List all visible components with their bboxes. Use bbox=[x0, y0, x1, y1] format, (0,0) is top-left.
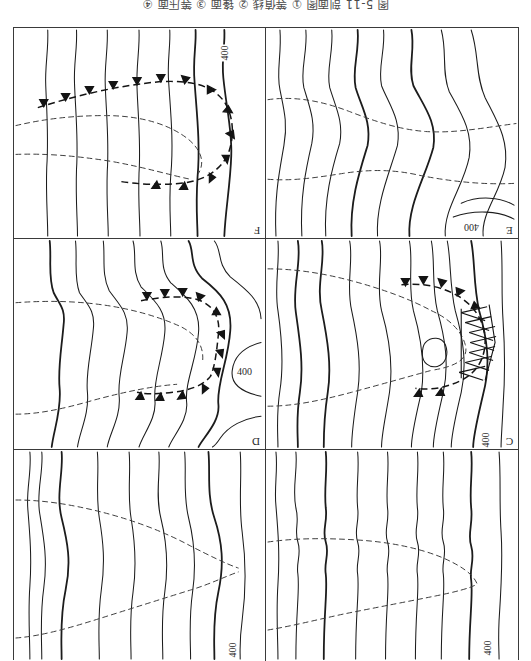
panel-c-plot bbox=[266, 239, 518, 449]
dashed-contour-set bbox=[16, 500, 238, 638]
dashed-contour-set bbox=[16, 116, 202, 180]
panel-grid: 400 F bbox=[13, 27, 519, 660]
closed-contour-set bbox=[453, 198, 514, 219]
figure-caption-strip: 图 5-11 剖面图 ① 等值线 ② 锋面 ③ 等压面 ④ bbox=[0, 0, 531, 14]
panel-label-f: F bbox=[254, 225, 260, 236]
panel-f: 400 F bbox=[14, 28, 266, 239]
panel-e-plot bbox=[266, 28, 518, 238]
contour-label-400-d: 400 bbox=[236, 367, 253, 377]
solid-contour-set bbox=[50, 241, 261, 447]
dashed-contour-set bbox=[268, 98, 516, 183]
dashed-contour-set bbox=[268, 269, 466, 406]
solid-contour-set bbox=[276, 30, 506, 236]
panel-a: 400 bbox=[266, 450, 518, 661]
panel-e: 400 E bbox=[266, 28, 518, 239]
barbed-front-line bbox=[38, 75, 234, 189]
contour-label-400-b: 400 bbox=[228, 642, 238, 659]
solid-contour-set bbox=[275, 452, 502, 659]
panel-label-d: D bbox=[252, 436, 260, 447]
solid-contour-set bbox=[46, 30, 232, 236]
contour-label-400-a: 400 bbox=[483, 640, 493, 657]
front-barbs bbox=[136, 289, 224, 400]
panel-c: 400 C bbox=[266, 239, 518, 450]
panel-d-plot bbox=[14, 239, 265, 449]
contour-label-400-c: 400 bbox=[481, 432, 491, 449]
solid-contour-set bbox=[27, 452, 245, 659]
front-barbs bbox=[401, 277, 479, 396]
figure-caption-text: 图 5-11 剖面图 ① 等值线 ② 锋面 ③ 等压面 ④ bbox=[0, 0, 531, 13]
contour-label-400-e: 400 bbox=[463, 222, 480, 232]
contour-label-400-f: 400 bbox=[220, 45, 230, 62]
barbed-front-line bbox=[136, 289, 224, 400]
panel-b-plot bbox=[14, 450, 265, 661]
panel-label-e: E bbox=[506, 225, 513, 236]
dashed-contour-set bbox=[16, 301, 203, 414]
panel-label-c: C bbox=[506, 436, 513, 447]
solid-contour-set bbox=[277, 241, 505, 447]
panel-b: 400 bbox=[14, 450, 266, 661]
panel-a-plot bbox=[266, 450, 518, 661]
panel-d: 400 D bbox=[14, 239, 266, 450]
